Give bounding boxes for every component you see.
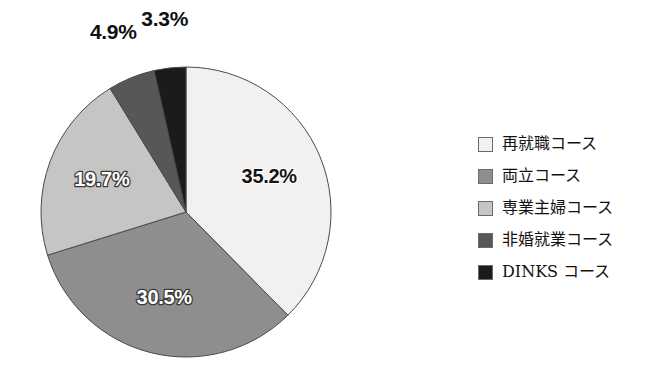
legend-item-label: 非婚就業コース bbox=[502, 232, 613, 248]
legend-swatch-icon bbox=[478, 169, 493, 184]
legend-item-label: 専業主婦コース bbox=[502, 200, 613, 216]
pie-chart-svg: 35.2%30.5%19.7%4.9%3.3% bbox=[0, 0, 420, 389]
pie-slice-group bbox=[41, 67, 331, 357]
pie-value-label: 4.9% bbox=[90, 20, 137, 43]
legend-item-ryoritsu[interactable]: 両立コース bbox=[478, 160, 659, 192]
legend-swatch-icon bbox=[478, 201, 493, 216]
pie-plot-area: 35.2%30.5%19.7%4.9%3.3% bbox=[0, 0, 420, 389]
pie-value-label: 3.3% bbox=[141, 7, 188, 30]
legend-item-label: 再就職コース bbox=[502, 136, 597, 152]
legend-swatch-icon bbox=[478, 137, 493, 152]
legend-item-sengyoshufu[interactable]: 専業主婦コース bbox=[478, 192, 659, 224]
legend-item-hikonshugyo[interactable]: 非婚就業コース bbox=[478, 224, 659, 256]
legend-item-label: DINKS コース bbox=[502, 264, 610, 280]
legend-item-dinks[interactable]: DINKS コース bbox=[478, 256, 659, 288]
pie-chart-figure: 35.2%30.5%19.7%4.9%3.3% 再就職コース 両立コース 専業主… bbox=[0, 0, 659, 389]
pie-value-label: 35.2% bbox=[242, 165, 298, 187]
legend-item-saishushoku[interactable]: 再就職コース bbox=[478, 128, 659, 160]
chart-legend: 再就職コース 両立コース 専業主婦コース 非婚就業コース DINKS コース bbox=[478, 128, 659, 288]
pie-value-label: 19.7% bbox=[74, 168, 130, 190]
legend-swatch-icon bbox=[478, 233, 493, 248]
pie-value-label: 30.5% bbox=[137, 286, 193, 308]
legend-swatch-icon bbox=[478, 265, 493, 280]
legend-item-label: 両立コース bbox=[502, 168, 581, 184]
